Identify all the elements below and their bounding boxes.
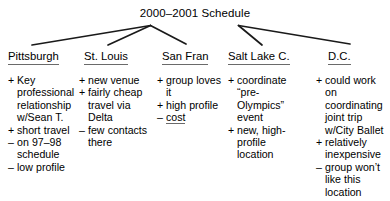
list-item: +relatively inexpensive bbox=[316, 136, 387, 161]
connector-to-st-louis bbox=[108, 26, 151, 46]
item-sign: + bbox=[79, 74, 85, 86]
branch-item-list-pittsburgh: +Key professional relationship w/Sean T.… bbox=[8, 74, 73, 173]
schedule-tree-diagram: 2000–2001 Schedule Pittsburgh +Key profe… bbox=[0, 0, 390, 201]
list-item: –group won’t like this location bbox=[316, 161, 387, 198]
list-item: +coordinate “pre-Olympics” event bbox=[228, 74, 304, 124]
branch-item-list-st-louis: +new venue +fairly cheap travel via Delt… bbox=[79, 74, 149, 148]
item-text: few contacts there bbox=[88, 124, 147, 148]
branch-column-salt-lake: Salt Lake C. +coordinate “pre-Olympics” … bbox=[224, 46, 307, 161]
branch-column-pittsburgh: Pittsburgh +Key professional relationshi… bbox=[0, 46, 76, 173]
item-sign: + bbox=[316, 136, 322, 148]
branch-item-list-dc: +could work on coordinating joint trip w… bbox=[316, 74, 387, 198]
item-sign: – bbox=[8, 161, 14, 173]
list-item: +fairly cheap travel via Delta bbox=[79, 86, 149, 123]
item-text: low profile bbox=[17, 161, 65, 173]
connector-to-san-fran bbox=[151, 26, 187, 45]
item-sign: + bbox=[79, 86, 85, 98]
list-item: –low profile bbox=[8, 161, 73, 173]
item-sign: – bbox=[79, 124, 85, 136]
item-text: relatively inexpensive bbox=[325, 136, 381, 160]
list-item: +high profile bbox=[157, 99, 221, 111]
list-item: –few contacts there bbox=[79, 124, 149, 149]
list-item: +short travel bbox=[8, 124, 73, 136]
item-text-emphasized: cost bbox=[166, 111, 185, 124]
list-item: +new venue bbox=[79, 74, 149, 86]
list-item: –cost bbox=[157, 111, 221, 123]
list-item: +new, high-profile location bbox=[228, 124, 304, 161]
branch-column-st-louis: St. Louis +new venue +fairly cheap trave… bbox=[76, 46, 152, 148]
connector-to-dc bbox=[239, 26, 351, 45]
diagram-title: 2000–2001 Schedule bbox=[0, 6, 390, 20]
branch-column-dc: D.C. +could work on coordinating joint t… bbox=[307, 46, 390, 198]
branch-item-list-san-fran: +group loves it +high profile –cost bbox=[157, 74, 221, 124]
item-text: on 97–98 schedule bbox=[17, 136, 61, 160]
item-sign: + bbox=[316, 74, 322, 86]
item-sign: – bbox=[316, 161, 322, 173]
item-text: coordinate “pre-Olympics” event bbox=[237, 74, 286, 123]
item-text: new, high-profile location bbox=[237, 124, 286, 161]
item-text: could work on coordinating joint trip w/… bbox=[325, 74, 383, 136]
branch-header-st-louis: St. Louis bbox=[84, 50, 128, 65]
connector-to-pittsburgh bbox=[32, 26, 151, 46]
list-item: +group loves it bbox=[157, 74, 221, 99]
item-sign: + bbox=[157, 99, 163, 111]
item-sign: + bbox=[228, 74, 234, 86]
item-text: short travel bbox=[17, 124, 70, 136]
item-sign: + bbox=[8, 74, 14, 86]
item-sign: + bbox=[157, 74, 163, 86]
item-sign: – bbox=[8, 136, 14, 148]
item-sign: + bbox=[8, 124, 14, 136]
branch-header-pittsburgh: Pittsburgh bbox=[8, 50, 59, 65]
branch-header-dc: D.C. bbox=[328, 50, 351, 65]
list-item: +Key professional relationship w/Sean T. bbox=[8, 74, 73, 124]
branch-header-salt-lake: Salt Lake C. bbox=[228, 50, 290, 65]
item-text: group won’t like this location bbox=[325, 161, 380, 198]
item-sign: + bbox=[228, 124, 234, 136]
list-item: +could work on coordinating joint trip w… bbox=[316, 74, 387, 136]
item-text: Key professional relationship w/Sean T. bbox=[17, 74, 74, 123]
item-text: fairly cheap travel via Delta bbox=[88, 86, 142, 123]
branch-column-san-fran: San Fran +group loves it +high profile –… bbox=[152, 46, 224, 124]
connector-to-salt-lake bbox=[239, 26, 263, 46]
item-text: new venue bbox=[88, 74, 139, 86]
branch-columns: Pittsburgh +Key professional relationshi… bbox=[0, 46, 390, 201]
item-text: group loves it bbox=[166, 74, 221, 98]
branch-item-list-salt-lake: +coordinate “pre-Olympics” event +new, h… bbox=[228, 74, 304, 161]
item-text: high profile bbox=[166, 99, 218, 111]
list-item: –on 97–98 schedule bbox=[8, 136, 73, 161]
branch-header-san-fran: San Fran bbox=[162, 50, 208, 65]
item-sign: – bbox=[157, 111, 163, 123]
